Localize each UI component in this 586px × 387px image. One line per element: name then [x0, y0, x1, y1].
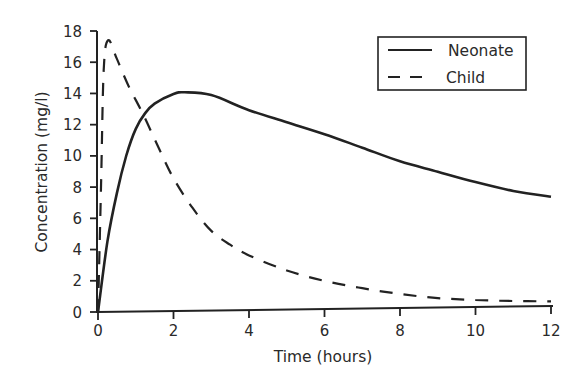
y-tick-label: 18 [63, 23, 82, 41]
y-tick-label: 12 [63, 116, 82, 134]
x-tick-label: 4 [244, 322, 254, 340]
x-tick-label: 10 [466, 322, 485, 340]
y-tick-label: 4 [72, 241, 82, 259]
chart: 024681012141618 024681012 Time (hours) C… [0, 0, 586, 387]
y-tick-label: 14 [63, 85, 82, 103]
legend: Neonate Child [378, 37, 526, 90]
x-tick-label: 12 [541, 322, 560, 340]
y-axis-title: Concentration (mg/l) [33, 91, 51, 252]
x-tick-label: 0 [93, 322, 103, 340]
y-tick-label: 8 [72, 179, 82, 197]
y-axis-ticks: 024681012141618 [63, 23, 97, 322]
y-tick-label: 10 [63, 147, 82, 165]
x-axis-title: Time (hours) [273, 348, 373, 366]
legend-label-child: Child [446, 69, 485, 87]
y-tick-label: 6 [72, 210, 82, 228]
y-tick-label: 16 [63, 54, 82, 72]
x-tick-label: 6 [320, 322, 330, 340]
series-line-neonate [98, 92, 551, 312]
legend-label-neonate: Neonate [448, 42, 514, 60]
y-tick-label: 2 [72, 272, 82, 290]
x-tick-label: 2 [169, 322, 179, 340]
y-tick-label: 0 [72, 304, 82, 322]
x-tick-label: 8 [395, 322, 405, 340]
